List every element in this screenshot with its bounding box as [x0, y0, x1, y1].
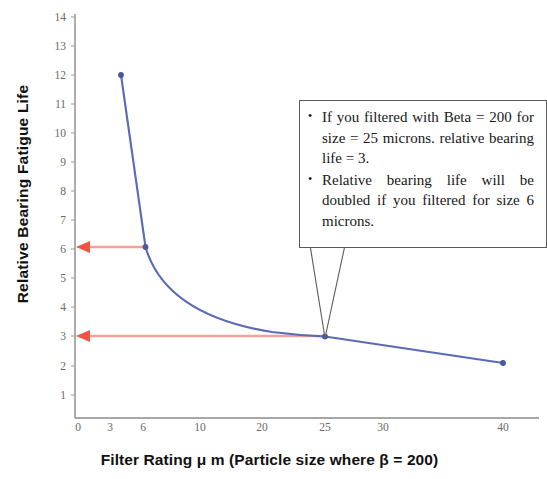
data-point-6-6 [143, 244, 149, 250]
callout-annotation-box[interactable]: If you filtered with Beta = 200 for size… [299, 100, 547, 248]
arrow-head-life-6 [76, 241, 90, 253]
data-point-3-11.9 [118, 72, 124, 78]
callout-bullet-2: Relative bearing life will be doubled if… [322, 170, 538, 232]
annotation-arrows [76, 241, 326, 342]
callout-bullet-1: If you filtered with Beta = 200 for size… [322, 107, 538, 169]
callout-tail-triangle [310, 245, 345, 338]
callout-pointer [290, 240, 410, 350]
data-point-40-2.15 [500, 360, 506, 366]
callout-bullet-list: If you filtered with Beta = 200 for size… [300, 101, 546, 231]
arrow-head-life-3 [76, 330, 90, 342]
